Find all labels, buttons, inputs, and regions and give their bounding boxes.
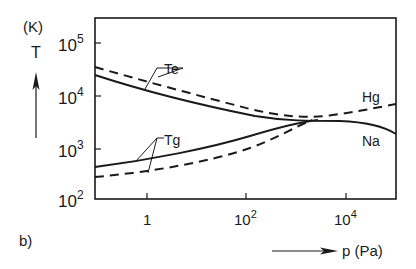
tg-annotation: Tg (164, 132, 180, 148)
y-tick-label-1e5: 105 (58, 32, 84, 55)
y-arrow-icon (33, 72, 40, 138)
y-tick-label-1e4: 104 (58, 85, 84, 108)
y-symbol-label: T (31, 44, 41, 61)
x-arrow-icon (272, 248, 338, 255)
chart-canvas: 105 104 103 102 1 102 104 (K) T p (Pa) b… (0, 0, 416, 269)
te-annotation: Te (164, 61, 179, 77)
na-annotation: Na (362, 133, 380, 149)
y-unit-label: (K) (23, 18, 43, 35)
x-tick-label-1: 1 (143, 211, 151, 228)
curves (95, 67, 396, 177)
y-tick-label-1e2: 102 (58, 188, 84, 211)
x-axis-label: p (Pa) (342, 242, 383, 259)
te-na-curve (95, 75, 396, 134)
x-tick-label-1e4: 104 (334, 208, 357, 228)
x-tick-marks (147, 193, 346, 199)
te-hg-curve (95, 67, 396, 117)
tg-leader-lines (136, 138, 164, 173)
y-tick-marks (95, 43, 101, 149)
x-tick-label-1e2: 102 (234, 208, 257, 228)
panel-label: b) (19, 232, 32, 249)
y-tick-label-1e3: 103 (58, 138, 84, 161)
hg-annotation: Hg (362, 89, 380, 105)
